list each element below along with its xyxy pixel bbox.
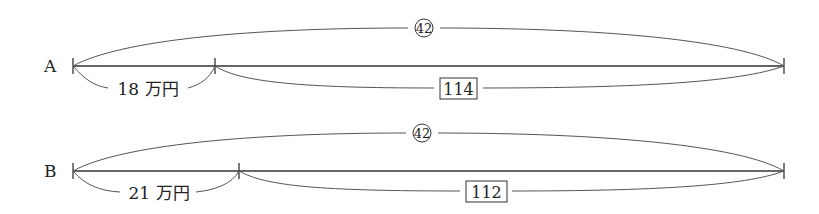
row-b-label: B	[44, 161, 57, 181]
row-a-right-arc-b	[483, 66, 784, 88]
row-a-left-label: 18 万円	[117, 79, 178, 99]
row-a: A 42 18 万円 114	[43, 19, 784, 99]
row-a-right-label: 114	[443, 80, 474, 99]
row-b-left-arc-a	[73, 171, 120, 192]
row-a-total-label: 42	[416, 21, 433, 36]
row-a-total-arc-left	[73, 28, 408, 66]
row-a-left-arc-a	[73, 66, 108, 88]
row-b-right-arc-a	[239, 171, 460, 191]
row-b-left-arc-b	[196, 171, 239, 192]
row-b-right-arc-b	[512, 171, 784, 191]
row-a-right-arc-a	[215, 66, 434, 88]
row-b-total-arc-right	[438, 133, 784, 171]
row-a-total-arc-right	[440, 28, 784, 66]
row-b-total-label: 42	[414, 126, 431, 141]
row-b-left-label: 21 万円	[128, 183, 189, 203]
row-b: B 42 21 万円 112	[44, 124, 784, 203]
segment-diagram: A 42 18 万円 114 B 42 21 万円	[0, 0, 819, 214]
row-a-label: A	[43, 56, 57, 76]
row-b-right-label: 112	[471, 183, 502, 202]
row-a-left-arc-b	[188, 66, 215, 88]
